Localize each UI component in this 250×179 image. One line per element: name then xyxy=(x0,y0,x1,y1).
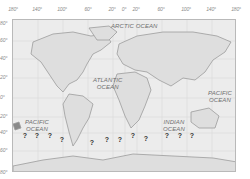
lon-label: 0° xyxy=(122,6,126,12)
lon-label: 60° xyxy=(85,6,92,12)
lon-label: 140° xyxy=(32,6,42,12)
lon-label: 60° xyxy=(158,6,165,12)
lon-label: 20° xyxy=(109,6,116,12)
lat-label: 80° xyxy=(0,20,8,26)
question-mark-marker: ? xyxy=(118,136,122,143)
question-mark-marker: ? xyxy=(165,132,169,139)
lon-label: 20° xyxy=(133,6,140,12)
lat-label: 40° xyxy=(0,55,8,61)
question-mark-marker: ? xyxy=(131,132,135,139)
lon-label: 180° xyxy=(231,6,241,12)
question-mark-marker: ? xyxy=(90,139,94,146)
question-mark-marker: ? xyxy=(105,136,109,143)
lat-label: 20° xyxy=(0,74,8,80)
arctic-ocean-label: ARCTIC OCEAN xyxy=(111,23,158,30)
lat-label: 20° xyxy=(0,113,8,119)
question-mark-marker: ? xyxy=(48,132,52,139)
question-mark-marker: ? xyxy=(23,132,27,139)
lon-label: 180° xyxy=(8,6,18,12)
atlantic-ocean-label: ATLANTICOCEAN xyxy=(93,77,122,91)
lat-label: 60° xyxy=(0,147,8,153)
question-mark-marker: ? xyxy=(178,132,182,139)
pacific-ocean-east-label: PACIFICOCEAN xyxy=(208,90,232,104)
question-mark-marker: ? xyxy=(190,132,194,139)
question-mark-marker: ? xyxy=(144,135,148,142)
lon-label: 140° xyxy=(206,6,216,12)
lat-label: 60° xyxy=(0,37,8,43)
lat-label: 40° xyxy=(0,129,8,135)
lat-label: 0° xyxy=(0,94,5,100)
question-mark-marker: ? xyxy=(35,132,39,139)
lon-label: 100° xyxy=(181,6,191,12)
lon-label: 100° xyxy=(57,6,67,12)
lat-label: 80° xyxy=(0,169,8,175)
map-graphic xyxy=(13,20,236,172)
question-mark-marker: ? xyxy=(60,136,64,143)
map-frame: ARCTIC OCEAN ATLANTICOCEAN PACIFICOCEAN … xyxy=(12,19,236,172)
